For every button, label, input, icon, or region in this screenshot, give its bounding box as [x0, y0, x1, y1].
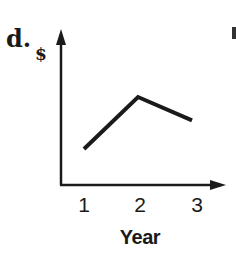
x-axis-arrow-icon	[210, 180, 226, 190]
chart-plot	[0, 0, 236, 267]
adjacent-panel-fragment	[232, 27, 236, 39]
x-axis-label: Year	[120, 226, 160, 249]
data-line	[84, 97, 192, 149]
x-tick-1: 1	[78, 193, 90, 217]
x-tick-3: 3	[191, 193, 203, 217]
y-axis-arrow-icon	[56, 29, 66, 45]
x-tick-2: 2	[134, 193, 146, 217]
